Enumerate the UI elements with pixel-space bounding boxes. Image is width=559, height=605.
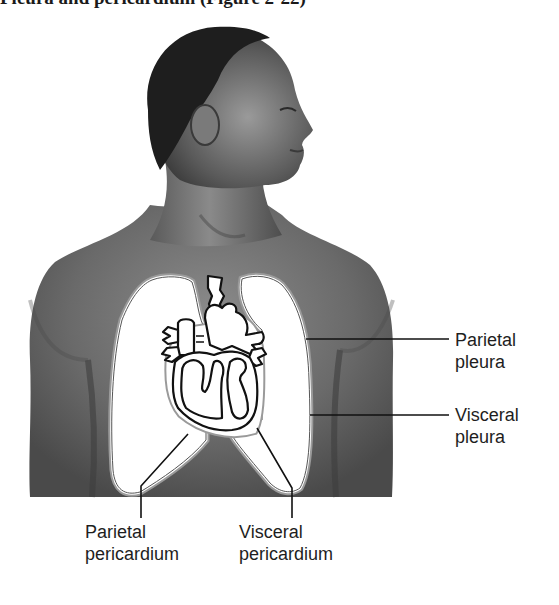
head (147, 27, 313, 189)
label-parietal-pleura-line2: pleura (455, 351, 516, 373)
label-visceral-pleura-line1: Visceral (455, 404, 519, 426)
label-parietal-pericardium: Parietal pericardium (85, 521, 179, 565)
label-visceral-pericardium-line1: Visceral (239, 521, 333, 543)
label-visceral-pericardium: Visceral pericardium (239, 521, 333, 565)
label-visceral-pericardium-line2: pericardium (239, 543, 333, 565)
label-visceral-pleura-line2: pleura (455, 426, 519, 448)
label-visceral-pleura: Visceral pleura (455, 404, 519, 448)
label-parietal-pleura-line1: Parietal (455, 329, 516, 351)
label-parietal-pericardium-line1: Parietal (85, 521, 179, 543)
anatomy-figure (0, 0, 559, 605)
label-parietal-pericardium-line2: pericardium (85, 543, 179, 565)
label-parietal-pleura: Parietal pleura (455, 329, 516, 373)
